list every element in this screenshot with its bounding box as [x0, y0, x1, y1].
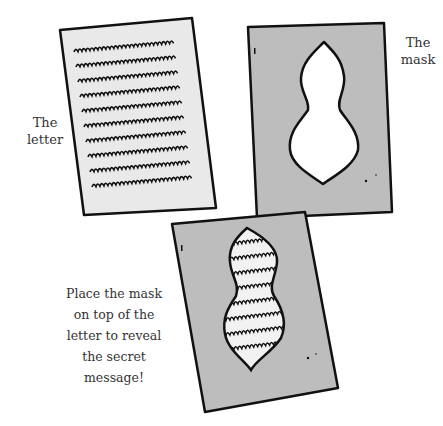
mask-label-line-1: The	[396, 34, 440, 51]
letter-label: The letter	[22, 114, 68, 148]
instruction-line-5: message!	[52, 367, 176, 388]
instruction-line-2: on top of the	[52, 304, 176, 325]
letter-sheet	[60, 18, 216, 215]
letter-label-line-1: The	[22, 114, 68, 131]
instruction-text: Place the mask on top of the letter to r…	[52, 283, 176, 388]
mask-label: The mask	[396, 34, 440, 68]
mask-label-line-2: mask	[396, 51, 440, 68]
mask-on-letter	[172, 212, 338, 412]
letter-label-line-2: letter	[22, 131, 68, 148]
mask-sheet	[248, 23, 392, 218]
instruction-line-3: letter to reveal	[52, 325, 176, 346]
instruction-line-1: Place the mask	[52, 283, 176, 304]
instruction-line-4: the secret	[52, 346, 176, 367]
speck	[254, 48, 256, 54]
